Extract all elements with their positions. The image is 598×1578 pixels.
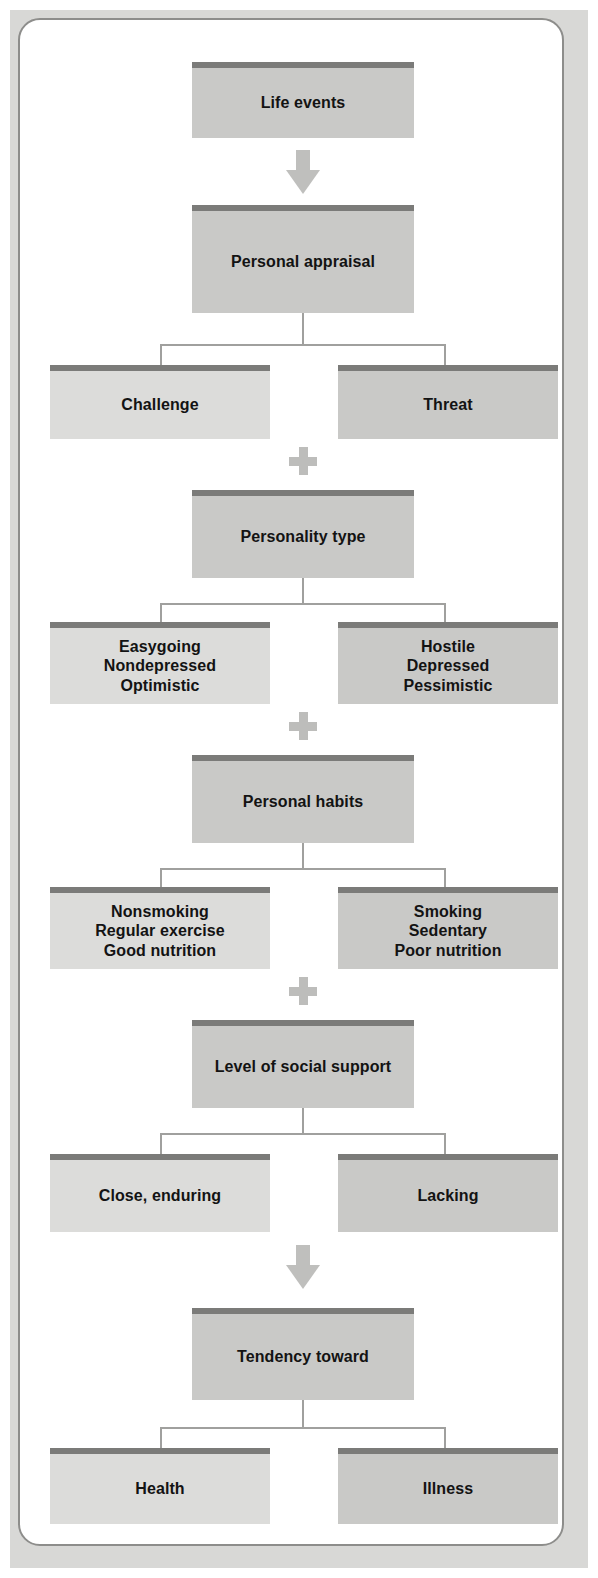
connector-drop-smoking	[444, 868, 446, 888]
node-close-enduring: Close, enduring	[50, 1154, 270, 1232]
connector-drop-threat	[444, 344, 446, 366]
connector-stem-support	[302, 1108, 304, 1134]
node-easygoing-profile-label: Easygoing Nondepressed Optimistic	[98, 637, 222, 696]
plus-icon-3	[289, 977, 317, 1005]
node-lacking-label: Lacking	[411, 1186, 484, 1206]
connector-bar-habits	[160, 868, 446, 870]
node-personal-appraisal: Personal appraisal	[192, 205, 414, 313]
connector-drop-lacking	[444, 1133, 446, 1155]
node-lacking: Lacking	[338, 1154, 558, 1232]
node-threat-label: Threat	[417, 395, 479, 415]
node-threat: Threat	[338, 365, 558, 439]
connector-drop-easygoing	[160, 603, 162, 623]
node-unhealthy-habits-label: Smoking Sedentary Poor nutrition	[388, 902, 507, 961]
node-hostile-profile-label: Hostile Depressed Pessimistic	[397, 637, 498, 696]
node-personality-type: Personality type	[192, 490, 414, 578]
node-life-events: Life events	[192, 62, 414, 138]
node-healthy-habits: Nonsmoking Regular exercise Good nutriti…	[50, 887, 270, 969]
connector-bar-support	[160, 1133, 446, 1135]
connector-stem-habits	[302, 843, 304, 869]
connector-bar-tendency	[160, 1427, 446, 1429]
plus-icon-2	[289, 712, 317, 740]
node-illness-label: Illness	[417, 1479, 480, 1499]
connector-bar-personality	[160, 603, 446, 605]
node-illness: Illness	[338, 1448, 558, 1524]
connector-drop-illness	[444, 1427, 446, 1449]
connector-drop-health	[160, 1427, 162, 1449]
connector-drop-challenge	[160, 344, 162, 366]
node-social-support: Level of social support	[192, 1020, 414, 1108]
flowchart-canvas: Life events Personal appraisal Challenge…	[0, 0, 598, 1578]
node-personal-appraisal-label: Personal appraisal	[225, 252, 381, 272]
node-personal-habits-label: Personal habits	[237, 792, 370, 812]
node-easygoing-profile: Easygoing Nondepressed Optimistic	[50, 622, 270, 704]
node-unhealthy-habits: Smoking Sedentary Poor nutrition	[338, 887, 558, 969]
down-arrow-icon-bottom	[286, 1245, 320, 1289]
connector-drop-close-enduring	[160, 1133, 162, 1155]
node-health: Health	[50, 1448, 270, 1524]
connector-stem-personality	[302, 578, 304, 604]
node-health-label: Health	[129, 1479, 191, 1499]
connector-stem-appraisal	[302, 313, 304, 345]
connector-bar-appraisal	[160, 344, 446, 346]
node-personal-habits: Personal habits	[192, 755, 414, 843]
connector-stem-tendency	[302, 1400, 304, 1428]
connector-drop-nonsmoking	[160, 868, 162, 888]
connector-drop-hostile	[444, 603, 446, 623]
down-arrow-icon-top	[286, 150, 320, 194]
node-personality-type-label: Personality type	[234, 527, 371, 547]
node-close-enduring-label: Close, enduring	[93, 1186, 227, 1206]
node-tendency-toward-label: Tendency toward	[231, 1347, 375, 1367]
node-social-support-label: Level of social support	[209, 1057, 398, 1077]
node-healthy-habits-label: Nonsmoking Regular exercise Good nutriti…	[89, 902, 231, 961]
plus-icon-1	[289, 447, 317, 475]
node-tendency-toward: Tendency toward	[192, 1308, 414, 1400]
node-challenge-label: Challenge	[115, 395, 204, 415]
node-challenge: Challenge	[50, 365, 270, 439]
node-life-events-label: Life events	[255, 93, 352, 113]
node-hostile-profile: Hostile Depressed Pessimistic	[338, 622, 558, 704]
